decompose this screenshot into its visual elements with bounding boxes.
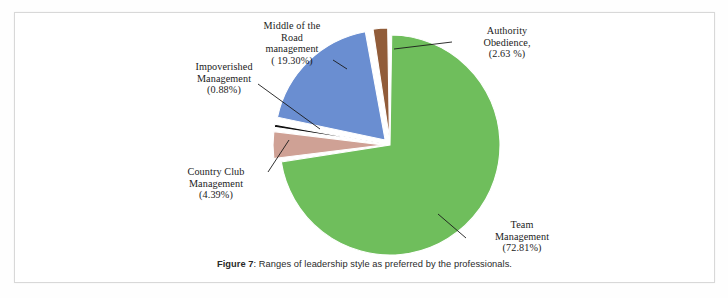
figure-caption-text: Ranges of leadership style as preferred … — [259, 259, 512, 269]
pie-label-impoverished-management: Impoverished Management (0.88%) — [172, 61, 276, 96]
pie-label-country-club-management: Country Club Management (4.39%) — [163, 166, 269, 201]
figure-caption-label: Figure 7 — [217, 259, 254, 269]
pie-label-team-management: Team Management (72.81%) — [470, 219, 574, 254]
figure-caption: Figure 7: Ranges of leadership style as … — [14, 259, 715, 269]
pie-label-middle-of-road-management: Middle of the Road management ( 19.30%) — [234, 20, 350, 66]
pie-chart: Middle of the Road management ( 19.30%) … — [0, 0, 728, 298]
pie-chart-svg — [0, 0, 728, 298]
pie-label-authority-obedience: Authority Obedience, (2.63 %) — [455, 25, 559, 60]
figure-container: Middle of the Road management ( 19.30%) … — [0, 0, 728, 298]
